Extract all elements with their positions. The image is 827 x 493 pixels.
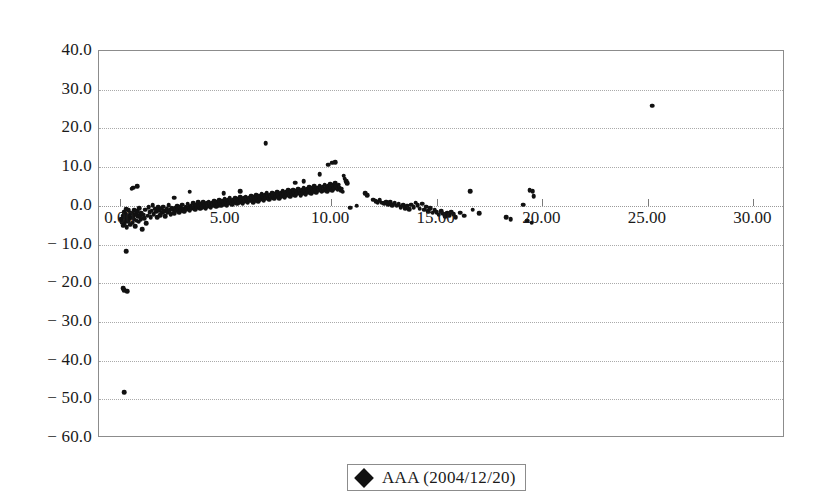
- y-tick-label: 10.0: [2, 157, 92, 174]
- y-axis-labels: 40.030.020.010.00.0− 10.0− 20.0− 30.0− 4…: [0, 50, 92, 437]
- x-tick-label: 10.00: [311, 209, 349, 226]
- y-tick-label: − 20.0: [2, 273, 92, 290]
- x-tick-label: 30.00: [733, 209, 771, 226]
- y-tick-label: − 40.0: [2, 351, 92, 368]
- y-tick-label: 40.0: [2, 41, 92, 58]
- y-tick-label: 20.0: [2, 118, 92, 135]
- legend-series-label: AAA (2004/12/20): [382, 469, 516, 486]
- y-tick-label: − 60.0: [2, 428, 92, 445]
- x-tick-label: 0.00: [104, 209, 134, 226]
- x-tick-label: 5.00: [210, 209, 240, 226]
- x-axis-labels: 0.005.0010.0015.0020.0025.0030.00: [98, 50, 784, 437]
- chart-legend: AAA (2004/12/20): [347, 464, 526, 491]
- scatter-chart: 40.030.020.010.00.0− 10.0− 20.0− 30.0− 4…: [0, 0, 827, 493]
- y-tick-label: 0.0: [2, 196, 92, 213]
- y-tick-label: 30.0: [2, 80, 92, 97]
- y-tick-label: − 30.0: [2, 312, 92, 329]
- y-tick-label: − 10.0: [2, 235, 92, 252]
- x-tick-label: 15.00: [417, 209, 455, 226]
- diamond-marker: [354, 468, 374, 488]
- x-tick-label: 25.00: [628, 209, 666, 226]
- x-tick-label: 20.00: [522, 209, 560, 226]
- y-tick-label: − 50.0: [2, 389, 92, 406]
